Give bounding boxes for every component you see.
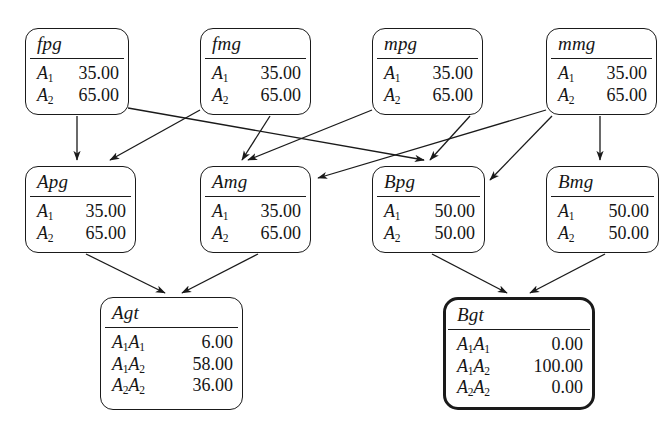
genotype-label: A2 xyxy=(37,223,54,245)
node-rows-Bgt: A1A10.00A1A2100.00A2A20.00 xyxy=(446,330,592,404)
node-title-Bpg: Bpg xyxy=(373,167,484,196)
node-title-Bgt: Bgt xyxy=(446,300,592,329)
genotype-value: 35.00 xyxy=(67,63,120,84)
genotype-value: 50.00 xyxy=(597,201,650,222)
node-rows-fpg: A135.00A265.00 xyxy=(26,59,128,111)
genotype-row: A265.00 xyxy=(384,85,473,107)
edge-mmg-to-Bpg xyxy=(490,116,552,180)
node-title-mpg: mpg xyxy=(373,29,482,58)
edge-mpg-to-Amg xyxy=(248,110,372,160)
genotype-label: A1A2 xyxy=(457,356,490,378)
edge-Apg-to-Agt xyxy=(86,254,165,293)
allele-subscript: 2 xyxy=(395,231,401,243)
allele-symbol: A2 xyxy=(474,356,491,376)
edge-group xyxy=(77,108,605,293)
genotype-row: A135.00 xyxy=(212,63,301,85)
node-Bpg[interactable]: BpgA150.00A250.00 xyxy=(372,166,485,253)
genotype-value: 50.00 xyxy=(423,223,476,244)
allele-symbol: A2 xyxy=(558,85,575,105)
node-Apg[interactable]: ApgA135.00A265.00 xyxy=(25,166,136,253)
genotype-row: A265.00 xyxy=(37,223,126,245)
genotype-label: A2 xyxy=(384,85,401,107)
allele-subscript: 2 xyxy=(48,231,54,243)
allele-symbol: A1 xyxy=(37,63,54,83)
genotype-label: A1 xyxy=(558,201,575,223)
allele-subscript: 1 xyxy=(569,210,575,222)
allele-subscript: 1 xyxy=(223,72,229,84)
node-mmg[interactable]: mmgA135.00A265.00 xyxy=(546,28,657,115)
allele-symbol: A1 xyxy=(457,334,474,354)
genotype-label: A2 xyxy=(384,223,401,245)
node-title-fmg: fmg xyxy=(201,29,310,58)
genotype-row: A1A2100.00 xyxy=(457,356,583,378)
node-title-mmg: mmg xyxy=(547,29,656,58)
genotype-row: A265.00 xyxy=(558,85,647,107)
genotype-row: A135.00 xyxy=(384,63,473,85)
allele-symbol: A2 xyxy=(457,377,474,397)
allele-subscript: 2 xyxy=(48,93,54,105)
genotype-value: 6.00 xyxy=(190,332,234,353)
genotype-row: A150.00 xyxy=(384,201,475,223)
node-Agt[interactable]: AgtA1A16.00A1A258.00A2A236.00 xyxy=(100,297,243,410)
allele-symbol: A2 xyxy=(37,85,54,105)
edge-Amg-to-Agt xyxy=(182,254,258,293)
allele-subscript: 2 xyxy=(569,231,575,243)
genotype-label: A1 xyxy=(384,201,401,223)
genotype-row: A1A10.00 xyxy=(457,334,583,356)
node-rows-Agt: A1A16.00A1A258.00A2A236.00 xyxy=(101,328,242,402)
allele-subscript: 1 xyxy=(395,72,401,84)
node-fpg[interactable]: fpgA135.00A265.00 xyxy=(25,28,129,115)
genotype-row: A135.00 xyxy=(37,201,126,223)
genotype-label: A2A2 xyxy=(112,375,145,397)
allele-subscript: 2 xyxy=(223,93,229,105)
genotype-label: A2A2 xyxy=(457,377,490,399)
allele-subscript: 2 xyxy=(569,93,575,105)
allele-subscript: 2 xyxy=(223,231,229,243)
node-Bgt[interactable]: BgtA1A10.00A1A2100.00A2A20.00 xyxy=(443,297,595,410)
node-mpg[interactable]: mpgA135.00A265.00 xyxy=(372,28,483,115)
allele-subscript: 1 xyxy=(139,341,145,353)
genotype-value: 65.00 xyxy=(249,223,302,244)
genotype-label: A1A2 xyxy=(112,354,145,376)
node-Bmg[interactable]: BmgA150.00A250.00 xyxy=(546,166,659,253)
genotype-value: 65.00 xyxy=(249,85,302,106)
genotype-label: A1 xyxy=(212,201,229,223)
allele-symbol: A2 xyxy=(129,354,146,374)
edge-fpg-to-Bpg xyxy=(128,108,424,160)
node-Amg[interactable]: AmgA135.00A265.00 xyxy=(200,166,311,253)
genotype-row: A135.00 xyxy=(558,63,647,85)
genotype-row: A265.00 xyxy=(212,85,301,107)
genotype-label: A2 xyxy=(37,85,54,107)
allele-subscript: 1 xyxy=(123,362,129,374)
genotype-value: 65.00 xyxy=(595,85,648,106)
genotype-row: A1A258.00 xyxy=(112,354,233,376)
allele-subscript: 1 xyxy=(468,343,474,355)
allele-symbol: A1 xyxy=(558,63,575,83)
genotype-label: A2 xyxy=(212,223,229,245)
allele-symbol: A1 xyxy=(384,201,401,221)
edge-Bpg-to-Bgt xyxy=(432,254,507,293)
genotype-row: A2A20.00 xyxy=(457,377,583,399)
node-rows-Apg: A135.00A265.00 xyxy=(26,197,135,249)
genotype-value: 50.00 xyxy=(597,223,650,244)
genotype-label: A1A1 xyxy=(457,334,490,356)
allele-subscript: 2 xyxy=(484,364,490,376)
node-rows-fmg: A135.00A265.00 xyxy=(201,59,310,111)
node-rows-mmg: A135.00A265.00 xyxy=(547,59,656,111)
genotype-row: A265.00 xyxy=(212,223,301,245)
node-rows-Amg: A135.00A265.00 xyxy=(201,197,310,249)
allele-symbol: A1 xyxy=(129,332,146,352)
allele-subscript: 1 xyxy=(123,341,129,353)
node-fmg[interactable]: fmgA135.00A265.00 xyxy=(200,28,311,115)
genotype-value: 0.00 xyxy=(540,334,584,355)
edge-mpg-to-Bpg xyxy=(430,116,470,160)
allele-subscript: 1 xyxy=(48,72,54,84)
genotype-value: 35.00 xyxy=(74,201,127,222)
node-title-Bmg: Bmg xyxy=(547,167,658,196)
allele-symbol: A1 xyxy=(212,63,229,83)
genotype-value: 35.00 xyxy=(595,63,648,84)
genotype-value: 58.00 xyxy=(181,354,234,375)
allele-symbol: A2 xyxy=(212,223,229,243)
allele-symbol: A2 xyxy=(558,223,575,243)
genotype-row: A2A236.00 xyxy=(112,375,233,397)
